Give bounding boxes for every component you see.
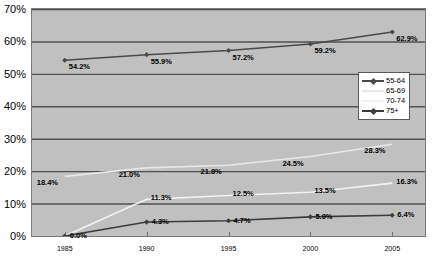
legend-item-75plus[interactable]: 75+ xyxy=(362,106,405,116)
legend-swatch-icon xyxy=(362,96,384,106)
data-point-label: 11.3% xyxy=(151,195,172,203)
data-point-label: 18.4% xyxy=(37,180,58,188)
data-point-label: 54.2% xyxy=(69,63,90,71)
legend-item-label: 75+ xyxy=(386,107,399,115)
legend-item-label: 70-74 xyxy=(386,97,405,105)
x-axis-tick-label: 1985 xyxy=(57,245,73,252)
data-point-label: 4.7% xyxy=(234,217,251,225)
data-point-label: 57.2% xyxy=(233,54,254,62)
legend-swatch-icon xyxy=(362,106,384,116)
data-point-label: 16.3% xyxy=(396,178,417,186)
data-point-label: 55.9% xyxy=(151,58,172,66)
legend-item-70-74[interactable]: 70-74 xyxy=(362,96,405,106)
legend-item-label: 65-69 xyxy=(386,87,405,95)
x-axis-tick-label: 2005 xyxy=(384,245,400,252)
x-axis-tick-label: 1990 xyxy=(139,245,155,252)
legend-item-label: 55-64 xyxy=(386,77,405,85)
chart-legend: 55-6465-6970-7475+ xyxy=(358,72,410,120)
legend-item-65-69[interactable]: 65-69 xyxy=(362,86,405,96)
data-point-label: 5.9% xyxy=(315,213,332,221)
data-point-label: 59.2% xyxy=(314,47,335,55)
x-axis-tick-label: 2000 xyxy=(303,245,319,252)
x-axis-tick-label: 1995 xyxy=(221,245,237,252)
data-point-label: 28.3% xyxy=(364,147,385,155)
data-point-label: 13.5% xyxy=(314,187,335,195)
data-point-label: 0.0% xyxy=(70,232,87,240)
x-axis: 19851990199520002005 xyxy=(0,0,434,264)
legend-item-55-64[interactable]: 55-64 xyxy=(362,76,405,86)
data-point-label: 21.8% xyxy=(201,169,222,177)
data-point-label: 24.5% xyxy=(282,160,303,168)
legend-swatch-icon xyxy=(362,86,384,96)
data-point-label: 12.5% xyxy=(233,191,254,199)
data-point-label: 4.3% xyxy=(152,218,169,226)
data-point-label: 21.0% xyxy=(119,171,140,179)
legend-swatch-icon xyxy=(362,76,384,86)
line-chart: 70%60%50%40%30%20%10%0% 1985199019952000… xyxy=(0,0,434,264)
data-point-label: 6.4% xyxy=(397,211,414,219)
data-point-label: 62.9% xyxy=(396,35,417,43)
